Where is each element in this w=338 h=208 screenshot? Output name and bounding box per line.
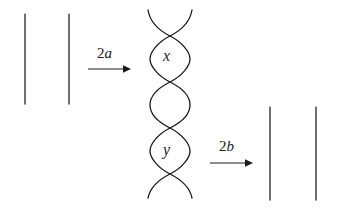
- figure-root: x y 2a 2b: [0, 0, 338, 208]
- right-strand-group: [270, 107, 316, 200]
- arrow-2a-label: 2a: [97, 46, 112, 61]
- arrow-2b-coefficient: 2: [219, 138, 227, 154]
- left-strand-group: [25, 14, 69, 104]
- arrow-2b: [210, 159, 253, 167]
- arrow-2a-head-icon: [123, 65, 131, 73]
- braid-strand-b: [150, 10, 192, 198]
- braid-strand-a: [148, 10, 190, 198]
- arrow-2b-head-icon: [245, 159, 253, 167]
- arrow-2b-label: 2b: [219, 139, 234, 154]
- arrow-2a: [88, 65, 131, 73]
- braid-strand-group: [148, 10, 192, 198]
- lens-label-y: y: [163, 142, 170, 158]
- arrow-2a-coefficient: 2: [97, 45, 105, 61]
- arrow-2a-variable: a: [105, 45, 113, 61]
- arrow-2b-variable: b: [227, 138, 235, 154]
- braid-diagram-svg: [0, 0, 338, 208]
- lens-label-x: x: [163, 48, 170, 64]
